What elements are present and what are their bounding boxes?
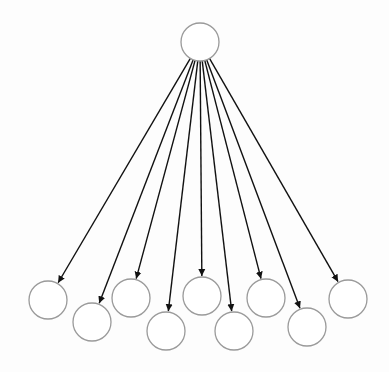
edge-arrow xyxy=(168,61,197,311)
edge-arrow xyxy=(202,61,231,311)
root-node xyxy=(181,23,219,61)
tree-diagram xyxy=(0,0,389,372)
child-6-node xyxy=(215,312,253,350)
edge-arrow xyxy=(136,60,195,278)
child-9-node xyxy=(329,280,367,318)
nodes xyxy=(29,23,367,350)
child-4-node xyxy=(147,312,185,350)
edge-arrow xyxy=(200,61,202,276)
edge-arrow xyxy=(205,60,261,278)
edges xyxy=(58,58,338,311)
child-5-node xyxy=(183,277,221,315)
child-1-node xyxy=(29,281,67,319)
edge-arrow xyxy=(58,58,190,282)
child-3-node xyxy=(112,279,150,317)
edge-arrow xyxy=(209,58,338,281)
child-2-node xyxy=(73,303,111,341)
child-7-node xyxy=(247,279,285,317)
edge-arrow xyxy=(99,60,193,304)
edge-arrow xyxy=(207,60,300,308)
child-8-node xyxy=(288,308,326,346)
